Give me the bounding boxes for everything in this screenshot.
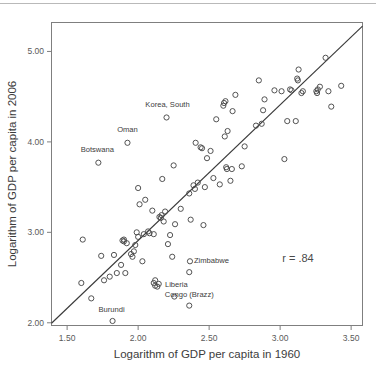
y-axis-tick-label: 2.00 [27,318,44,328]
y-axis-title: Logarithm of GDP per capita in 2006 [6,81,18,267]
x-axis-title: Logarithm of GDP per capita in 1960 [114,348,300,360]
data-point-marker [214,117,219,122]
x-axis-tick-label: 1.50 [59,333,76,343]
data-point-marker [80,237,85,242]
data-point-marker [110,318,115,323]
data-point-marker [123,270,128,275]
data-point-label: Botswana [81,145,115,154]
data-point-marker [150,208,155,213]
data-point-marker [201,223,206,228]
data-point-marker [193,140,198,145]
data-point-marker [89,296,94,301]
regression-line [52,26,363,323]
data-point-marker [230,109,235,114]
data-point-marker [295,78,300,83]
data-point-marker [188,217,193,222]
data-point-marker [161,219,166,224]
data-point-label: Korea, South [145,100,189,109]
data-point-marker [326,89,331,94]
data-point-marker [329,104,334,109]
data-point-group: BotswanaBurundiOmanKorea, SouthLiberiaCo… [79,55,344,323]
data-point-label: Congo (Brazz) [165,290,214,299]
data-point-marker [233,92,238,97]
data-point-marker [187,270,192,275]
data-point-marker [217,182,222,187]
data-point-marker [163,209,168,214]
data-point-marker [282,156,287,161]
data-point-marker [118,262,123,267]
data-point-marker [204,156,209,161]
data-point-marker [229,166,234,171]
data-point-marker [323,55,328,60]
x-axis-tick-label: 2.50 [201,333,218,343]
data-point-marker [208,148,213,153]
data-point-marker [165,242,170,247]
data-point-marker [296,67,301,72]
data-point-marker [96,160,101,165]
data-point-label: Burundi [98,305,124,314]
data-point-marker [187,303,192,308]
data-point-marker [167,232,172,237]
data-point-marker [111,252,116,257]
y-axis-tick-label: 4.00 [27,137,44,147]
data-point-marker [140,259,145,264]
data-point-marker [239,164,244,169]
data-point-marker [101,278,106,283]
data-point-marker [289,88,294,93]
y-axis-tick-label: 3.00 [27,227,44,237]
data-point-marker [293,118,298,123]
x-axis-tick-label: 3.00 [272,333,289,343]
data-point-marker [164,115,169,120]
data-point-label: Zimbabwe [194,256,229,265]
top-divider-line [0,3,376,4]
data-point-marker [260,108,265,113]
correlation-annotation: r = .84 [282,252,314,264]
data-point-marker [160,176,165,181]
data-point-marker [228,178,233,183]
data-point-marker [195,180,200,185]
x-axis-tick-label: 3.50 [343,333,360,343]
data-point-marker [262,97,267,102]
data-point-marker [114,270,119,275]
data-point-marker [143,197,148,202]
data-point-marker [170,254,175,259]
data-point-marker [256,78,261,83]
data-point-marker [172,222,177,227]
data-point-marker [225,128,230,133]
data-point-marker [314,90,319,95]
y-axis-tick-label: 5.00 [27,46,44,56]
data-point-marker [224,166,229,171]
data-point-marker [79,280,84,285]
data-point-label: Liberia [165,280,189,289]
data-point-marker [285,118,290,123]
data-point-marker [187,259,192,264]
x-axis-tick-label: 2.00 [130,333,147,343]
data-point-marker [136,185,141,190]
data-point-marker [99,253,104,258]
data-point-marker [202,185,207,190]
data-point-marker [272,88,277,93]
data-point-marker [125,140,130,145]
data-point-label: Oman [117,125,138,134]
data-point-marker [171,163,176,168]
scatter-plot-figure: 1.502.002.503.003.502.003.004.005.00Bots… [0,0,376,368]
gdp-scatter-chart: 1.502.002.503.003.502.003.004.005.00Bots… [0,0,376,368]
data-point-marker [137,202,142,207]
data-point-marker [107,274,112,279]
data-point-marker [242,144,247,149]
data-point-marker [279,89,284,94]
data-point-marker [222,134,227,139]
data-point-marker [339,83,344,88]
data-point-marker [211,175,216,180]
data-point-marker [178,206,183,211]
